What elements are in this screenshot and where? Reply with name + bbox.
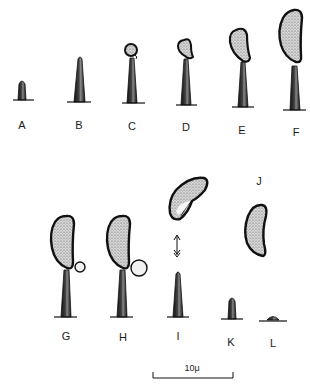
- label-c: C: [128, 121, 136, 132]
- stage-h-sterigma: [107, 216, 147, 317]
- figure-illustration: [0, 0, 310, 386]
- stage-e-sterigma: [230, 29, 254, 107]
- stage-i-discharged-spore: [170, 178, 208, 220]
- stage-a-sterigma: [13, 81, 34, 100]
- label-b: B: [75, 120, 82, 131]
- scale-bar-label: 10μ: [184, 364, 199, 373]
- label-g: G: [62, 331, 71, 342]
- stage-f-sterigma: [279, 10, 306, 110]
- stage-j-free-spore: [245, 205, 266, 256]
- stage-d-sterigma: [176, 39, 197, 105]
- label-f: F: [293, 127, 300, 138]
- label-a: A: [18, 120, 25, 131]
- label-j: J: [256, 176, 262, 187]
- stage-c-sterigma: [122, 44, 145, 103]
- stage-l-sterigma: [259, 317, 287, 322]
- label-e: E: [238, 125, 245, 136]
- stage-b-sterigma: [67, 57, 91, 102]
- discharge-arrow-icon: [174, 235, 180, 257]
- stage-k-sterigma: [221, 298, 243, 319]
- label-d: D: [182, 122, 190, 133]
- stage-i-sterigma: [167, 272, 189, 317]
- label-i: I: [176, 331, 179, 342]
- label-h: H: [119, 332, 127, 343]
- label-k: K: [227, 337, 234, 348]
- stage-g-sterigma: [51, 216, 85, 317]
- label-l: L: [270, 338, 276, 349]
